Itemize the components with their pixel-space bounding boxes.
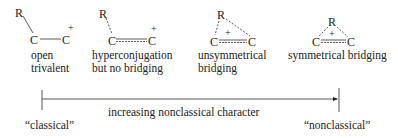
atom-c-right: C bbox=[148, 34, 156, 48]
atom-c-left: C bbox=[312, 35, 320, 49]
atom-c-left: C bbox=[210, 35, 218, 49]
atom-c-right: C bbox=[248, 35, 256, 49]
r-c-left-partial-bond bbox=[215, 21, 219, 35]
positive-charge: + bbox=[329, 28, 335, 39]
label-line: unsymmetrical bbox=[198, 49, 266, 62]
arrowhead-icon bbox=[333, 97, 338, 101]
scale-axis-label: increasing nonclassical character bbox=[108, 106, 259, 119]
atom-c-right: C bbox=[347, 35, 355, 49]
label-line: hyperconjugation bbox=[92, 49, 172, 62]
label-open-trivalent: open trivalent bbox=[31, 49, 69, 75]
label-line: symmetrical bridging bbox=[288, 49, 387, 62]
label-line: but no bridging bbox=[92, 62, 172, 75]
structure-hyperconjugation: R C C + bbox=[99, 7, 157, 48]
atom-r: R bbox=[328, 15, 336, 29]
atom-r: R bbox=[217, 8, 225, 22]
structure-unsymmetrical-bridging: R C C + bbox=[210, 8, 256, 49]
nonclassical-label: “nonclassical” bbox=[304, 119, 370, 132]
atom-c-left: C bbox=[108, 34, 116, 48]
label-line: trivalent bbox=[31, 62, 69, 75]
atom-r: R bbox=[99, 7, 107, 21]
classical-label: “classical” bbox=[25, 119, 74, 132]
structure-open-trivalent: R C C + bbox=[15, 6, 74, 47]
atom-c-left: C bbox=[30, 33, 38, 47]
r-c-bond bbox=[23, 16, 33, 33]
positive-charge: + bbox=[225, 27, 231, 38]
positive-charge: + bbox=[151, 23, 157, 34]
label-line: bridging bbox=[198, 62, 266, 75]
atom-c-right: C bbox=[62, 33, 70, 47]
label-symmetrical-bridging: symmetrical bridging bbox=[288, 49, 387, 62]
structure-symmetrical-bridging: R C C + bbox=[312, 15, 355, 49]
label-unsymmetrical-bridging: unsymmetrical bridging bbox=[198, 49, 266, 75]
label-hyperconjugation: hyperconjugation but no bridging bbox=[92, 49, 172, 75]
label-line: open bbox=[31, 49, 69, 62]
atom-r: R bbox=[15, 6, 23, 20]
positive-charge: + bbox=[68, 22, 74, 33]
